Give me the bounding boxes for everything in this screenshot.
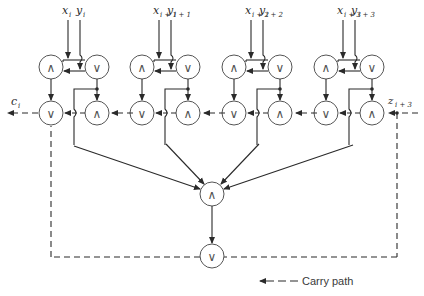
or-symbol: ∨ xyxy=(368,61,377,75)
x-input-label: x xyxy=(62,4,69,17)
generate-and-gate: ∧ xyxy=(222,55,246,79)
carry-or-gate: ∨ xyxy=(130,101,154,125)
propagate-or-gate: ∨ xyxy=(360,55,384,79)
carry-and-gate: ∧ xyxy=(176,101,200,125)
and-symbol: ∧ xyxy=(138,61,147,75)
y-input-sub: i + 3 xyxy=(358,11,376,19)
bottom-or-gate: ∨ xyxy=(200,244,224,268)
and-symbol: ∧ xyxy=(184,107,193,121)
legend-label: Carry path xyxy=(302,275,353,287)
and-symbol: ∧ xyxy=(47,61,56,75)
propagate-or-gate: ∨ xyxy=(268,55,292,79)
propagate-or-gate: ∨ xyxy=(176,55,200,79)
generate-and-gate: ∧ xyxy=(130,55,154,79)
carry-and-gate: ∧ xyxy=(360,101,384,125)
junction-dot xyxy=(395,111,399,115)
stage-1: xiyi∧∨∨∧ xyxy=(39,4,109,145)
carry-and-gate: ∧ xyxy=(268,101,292,125)
carry-or-gate: ∨ xyxy=(39,101,63,125)
y-input-sub: i + 1 xyxy=(174,11,191,19)
or-symbol: ∨ xyxy=(276,61,285,75)
carry-or-gate: ∨ xyxy=(222,101,246,125)
carry-and-gate: ∧ xyxy=(85,101,109,125)
generate-and-gate: ∧ xyxy=(39,55,63,79)
and-symbol: ∧ xyxy=(368,107,377,121)
center-and-gate: ∧ xyxy=(200,182,224,206)
y-input-sub: i + 2 xyxy=(266,11,284,19)
carry-in-label: z i + 3 xyxy=(387,95,413,109)
carry-out-label: c i xyxy=(11,95,20,110)
diagram-canvas: xiyi∧∨∨∧xi + 1yi + 1∧∨∨∧xi + 2yi + 2∧∨∨∧… xyxy=(0,0,424,296)
y-input-label: y xyxy=(350,4,358,17)
and-symbol: ∧ xyxy=(208,188,217,202)
or-symbol: ∨ xyxy=(208,250,217,264)
svg-text:c: c xyxy=(11,95,17,108)
carry-lookahead-diagram: xiyi∧∨∨∧xi + 1yi + 1∧∨∨∧xi + 2yi + 2∧∨∨∧… xyxy=(0,0,424,296)
stage-2: xi + 1yi + 1∧∨∨∧ xyxy=(130,4,200,145)
y-input-label: y xyxy=(166,4,174,17)
propagate-or-gate: ∨ xyxy=(85,55,109,79)
svg-text:i: i xyxy=(18,102,20,110)
and-symbol: ∧ xyxy=(230,61,239,75)
generate-and-gate: ∧ xyxy=(314,55,338,79)
stage-3: xi + 2yi + 2∧∨∨∧ xyxy=(222,4,292,145)
y-input-sub: i xyxy=(83,11,85,19)
or-symbol: ∨ xyxy=(322,107,331,121)
or-symbol: ∨ xyxy=(138,107,147,121)
y-input-label: y xyxy=(258,4,266,17)
x-input-label: x xyxy=(153,4,160,17)
or-symbol: ∨ xyxy=(184,61,193,75)
x-input-label: x xyxy=(337,4,344,17)
and-symbol: ∧ xyxy=(93,107,102,121)
svg-text:i + 3: i + 3 xyxy=(395,101,413,109)
and-symbol: ∧ xyxy=(322,61,331,75)
or-symbol: ∨ xyxy=(93,61,102,75)
svg-text:z: z xyxy=(387,95,394,106)
or-symbol: ∨ xyxy=(47,107,56,121)
or-symbol: ∨ xyxy=(230,107,239,121)
x-input-sub: i xyxy=(69,11,71,19)
stage-4: xi + 3yi + 3∧∨∨∧ xyxy=(314,4,384,145)
and-symbol: ∧ xyxy=(276,107,285,121)
legend: Carry path xyxy=(260,275,353,287)
y-input-label: y xyxy=(75,4,83,17)
x-input-label: x xyxy=(245,4,252,17)
carry-or-gate: ∨ xyxy=(314,101,338,125)
